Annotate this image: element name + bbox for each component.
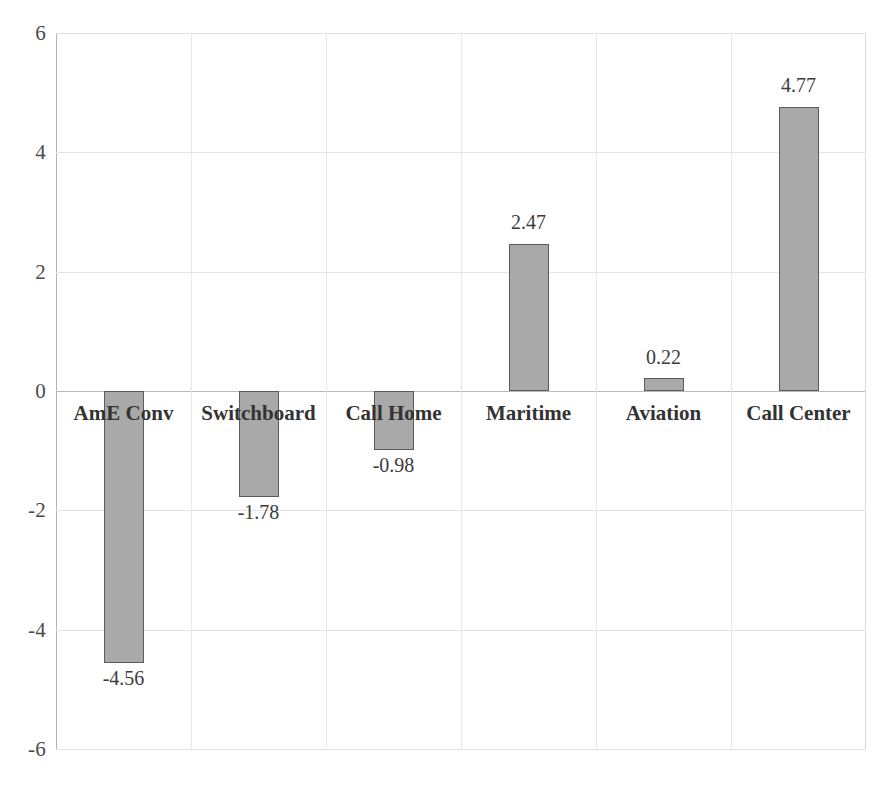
bar-group: Call Center 4.77 bbox=[731, 33, 866, 749]
plot-area: AmE Conv -4.56 Switchboard -1.78 Call Ho… bbox=[56, 33, 866, 749]
category-label: Call Home bbox=[345, 401, 441, 426]
y-tick-label: -4 bbox=[2, 617, 46, 642]
value-label: -0.98 bbox=[373, 454, 415, 477]
category-label: Switchboard bbox=[201, 401, 315, 426]
y-tick-label: 0 bbox=[2, 379, 46, 404]
bar-chart: 6 4 2 0 -2 -4 -6 AmE Conv -4.56 bbox=[0, 0, 894, 786]
value-label: -1.78 bbox=[238, 501, 280, 524]
value-label: 4.77 bbox=[781, 74, 816, 97]
category-label: AmE Conv bbox=[74, 401, 174, 426]
y-tick-label: 2 bbox=[2, 259, 46, 284]
bar[interactable] bbox=[509, 244, 549, 391]
bar[interactable] bbox=[644, 378, 684, 391]
bar-group: Call Home -0.98 bbox=[326, 33, 461, 749]
y-axis-tick-labels: 6 4 2 0 -2 -4 -6 bbox=[0, 33, 46, 749]
y-tick-label: 4 bbox=[2, 140, 46, 165]
value-label: -4.56 bbox=[103, 667, 145, 690]
y-tick-label: -6 bbox=[2, 737, 46, 762]
category-label: Aviation bbox=[626, 401, 701, 426]
bar[interactable] bbox=[779, 107, 819, 392]
gridline-horizontal bbox=[56, 749, 866, 750]
bar-group: Aviation 0.22 bbox=[596, 33, 731, 749]
bar-group: AmE Conv -4.56 bbox=[56, 33, 191, 749]
bar-group: Switchboard -1.78 bbox=[191, 33, 326, 749]
y-tick-label: 6 bbox=[2, 21, 46, 46]
category-label: Call Center bbox=[746, 401, 850, 426]
value-label: 0.22 bbox=[646, 346, 681, 369]
y-tick-label: -2 bbox=[2, 498, 46, 523]
bar[interactable] bbox=[104, 391, 144, 663]
value-label: 2.47 bbox=[511, 211, 546, 234]
bar-group: Maritime 2.47 bbox=[461, 33, 596, 749]
category-label: Maritime bbox=[486, 401, 571, 426]
